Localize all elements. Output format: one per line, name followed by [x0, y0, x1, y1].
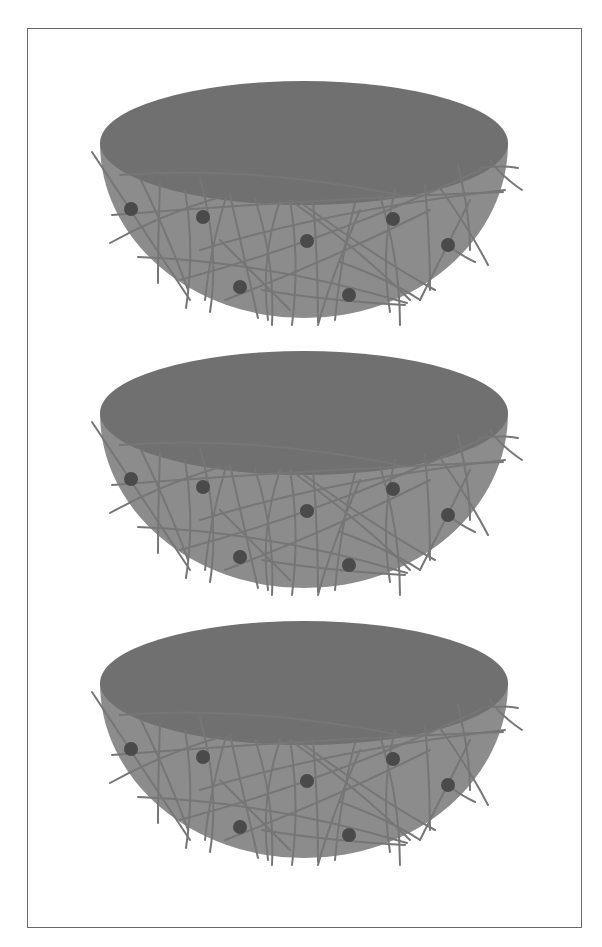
- hemisphere-panel-2: [92, 351, 522, 595]
- hemispheres-figure: [0, 0, 602, 947]
- hemisphere-panel-1: [92, 81, 522, 325]
- hemisphere-panel-3: [92, 621, 522, 865]
